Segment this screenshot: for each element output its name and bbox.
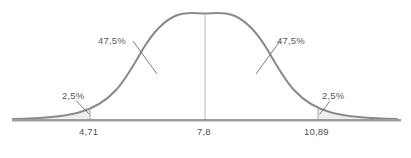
- axis-tick-label-upper-bound: 10,89: [304, 126, 329, 137]
- left-tail-percent-label: 2,5%: [62, 90, 84, 101]
- axis-tick-label-lower-bound: 4,71: [79, 126, 98, 137]
- left-body-percent-label: 47,5%: [98, 35, 126, 46]
- right-tail-percent-label: 2,5%: [322, 90, 344, 101]
- normal-distribution-figure: 2,5% 47,5% 47,5% 2,5% 4,71 7,8 10,89: [0, 0, 411, 158]
- right-body-percent-label: 47,5%: [277, 35, 305, 46]
- axis-tick-label-mean: 7,8: [197, 126, 211, 137]
